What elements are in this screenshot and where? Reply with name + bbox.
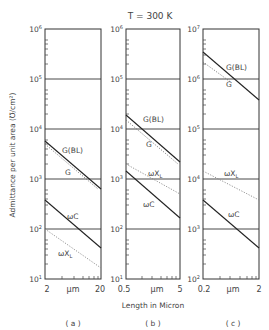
svg-text:102: 102 — [29, 224, 42, 234]
svg-text:104: 104 — [29, 124, 42, 134]
panel-a-series-wxl — [45, 229, 101, 268]
figure-title: T = 300 K — [127, 11, 174, 21]
svg-text:106: 106 — [187, 74, 200, 84]
panel-a-label-wxl: ωXL — [58, 249, 72, 259]
svg-text:104: 104 — [187, 174, 200, 184]
panel-a-label-wc: ωC — [67, 212, 79, 221]
x-axis-label: Length in Micron — [122, 301, 185, 310]
panel-a-x-right: 20 — [95, 285, 105, 294]
svg-text:107: 107 — [187, 24, 200, 34]
panel-c-label-gbl: G(BL) — [226, 63, 247, 72]
panel-b-x-left: 0.5 — [118, 285, 131, 294]
panel-a-series-wc — [45, 200, 101, 248]
panel-c-label-wc: ωC — [228, 210, 240, 219]
panel-b-frame — [126, 29, 180, 279]
svg-text:104: 104 — [110, 124, 123, 134]
panel-c-label-g: G — [226, 80, 232, 89]
panel-c-x-unit: µm — [227, 285, 240, 294]
panel-c-caption: ( c ) — [226, 319, 241, 328]
panel-c-series-wc — [203, 200, 259, 248]
svg-text:105: 105 — [29, 74, 42, 84]
panel-c-y-tick-labels: 102 103 104 105 106 107 — [187, 24, 200, 284]
y-axis-label: Admittance per unit area (Ʊ/cm²) — [8, 92, 17, 217]
panel-b-y-tick-labels: 101 102 103 104 105 106 — [110, 24, 123, 284]
panel-c-x-right: 2 — [256, 285, 261, 294]
svg-text:101: 101 — [110, 274, 123, 284]
svg-text:103: 103 — [187, 224, 200, 234]
panel-a: 101 102 103 104 105 106 2 µm 20 G(BL) G … — [29, 24, 105, 328]
panel-b-label-gbl: G(BL) — [143, 115, 164, 124]
svg-text:103: 103 — [29, 174, 42, 184]
panel-b-label-g: G — [146, 140, 152, 149]
panel-b-caption: ( b ) — [145, 319, 160, 328]
svg-text:102: 102 — [110, 224, 123, 234]
svg-text:105: 105 — [187, 124, 200, 134]
panel-a-x-left: 2 — [44, 285, 49, 294]
panel-c-x-left: 0.2 — [198, 285, 211, 294]
panel-a-label-g: G — [65, 168, 71, 177]
panel-b-series-wc — [126, 171, 180, 218]
panel-b-x-unit: µm — [151, 285, 164, 294]
panel-a-x-unit: µm — [67, 285, 80, 294]
svg-text:106: 106 — [29, 24, 42, 34]
panel-b-label-wxl: ωXL — [148, 169, 162, 179]
panel-a-label-gbl: G(BL) — [62, 146, 83, 155]
svg-text:102: 102 — [187, 274, 200, 284]
svg-text:106: 106 — [110, 24, 123, 34]
svg-text:101: 101 — [29, 274, 42, 284]
panel-c: 102 103 104 105 106 107 0.2 µm 2 G(BL) G… — [187, 24, 261, 328]
panel-b-series-g — [126, 120, 178, 164]
svg-text:105: 105 — [110, 74, 123, 84]
panel-b-x-right: 5 — [177, 285, 182, 294]
panel-a-y-tick-labels: 101 102 103 104 105 106 — [29, 24, 42, 284]
panel-c-label-wxl: ωXL — [224, 169, 238, 179]
svg-text:103: 103 — [110, 174, 123, 184]
figure: T = 300 K Admittance per unit area (Ʊ/cm… — [0, 0, 269, 330]
panel-a-caption: ( a ) — [65, 319, 80, 328]
panel-b: 101 102 103 104 105 106 0.5 µm 5 G(BL) G… — [110, 24, 184, 328]
panel-b-label-wc: ωC — [143, 200, 155, 209]
panel-c-series-gbl — [203, 52, 259, 100]
